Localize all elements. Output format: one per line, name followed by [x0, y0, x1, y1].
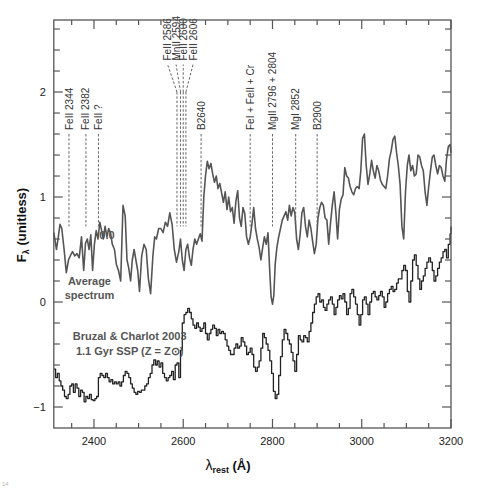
- y-tick-label: 1: [40, 191, 46, 203]
- x-tick-label: 2600: [171, 435, 195, 447]
- x-tick-label: 2800: [260, 435, 284, 447]
- y-tick-label: 2: [40, 86, 46, 98]
- x-tick-label: 2400: [82, 435, 106, 447]
- line-id-leader: [186, 65, 193, 92]
- x-axis-symbol: λ: [205, 457, 212, 473]
- line-id-label: MgII 2796 + 2804: [267, 51, 278, 130]
- line-id-label: FeII 2344: [64, 87, 75, 130]
- x-axis-title: λrest (Å): [205, 457, 250, 475]
- y-axis-unit: (unitless): [14, 188, 29, 249]
- y-tick-label: −1: [33, 401, 46, 413]
- model-spectrum-line: [54, 226, 451, 401]
- figure-corner-mark: 14: [2, 481, 9, 487]
- line-id-markers: FeII 2344FeII 2382FeII ?FeII 2586MnII 25…: [64, 16, 323, 227]
- chart-annotation: spectrum: [65, 289, 115, 301]
- series-layer: [54, 134, 451, 402]
- x-axis-unit: (Å): [229, 458, 251, 473]
- chart-canvas: FeII 2344FeII 2382FeII ?FeII 2586MnII 25…: [0, 0, 477, 488]
- line-id-leader: [176, 65, 180, 92]
- chart-annotation: 1.1 Gyr SSP (Z = Z⊙): [76, 345, 184, 357]
- x-tick-label: 3200: [439, 435, 463, 447]
- average-spectrum-line: [54, 134, 451, 304]
- line-id-label: B2640: [196, 101, 207, 130]
- y-axis-title: Fλ (unitless): [14, 188, 31, 262]
- x-axis-subscript: rest: [212, 465, 229, 475]
- y-tick-label: 0: [40, 296, 46, 308]
- y-axis-symbol: F: [14, 254, 29, 262]
- chart-annotation: 0.0: [99, 229, 114, 241]
- line-id-label: FeII 2382: [80, 87, 91, 130]
- line-id-label: B2900: [312, 101, 323, 130]
- line-id-label: FeII ?: [93, 104, 104, 130]
- x-tick-label: 3000: [349, 435, 373, 447]
- chart-annotation: Bruzal & Charlot 2003: [73, 330, 187, 342]
- line-id-label: FeII 2606: [188, 18, 199, 61]
- line-id-label: MgI 2852: [290, 88, 301, 130]
- line-id-label: FeI + FeII + Cr: [245, 64, 256, 130]
- chart-annotation: Average: [68, 275, 111, 287]
- line-id-leader: [168, 65, 177, 92]
